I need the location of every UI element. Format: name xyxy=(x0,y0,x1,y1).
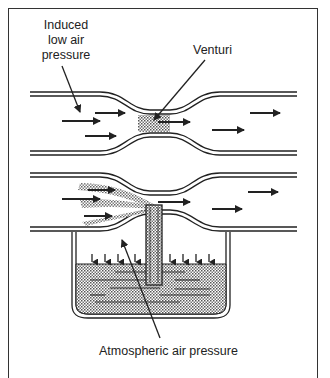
venturi-leader xyxy=(154,60,205,120)
discharge-nozzle xyxy=(146,205,162,285)
venturi-throat-shading xyxy=(138,115,170,132)
induced-pressure-leader xyxy=(62,66,80,112)
atmospheric-air-pressure-label: Atmospheric air pressure xyxy=(99,344,238,359)
venturi-label: Venturi xyxy=(193,43,232,58)
induced-low-air-pressure-label: Induced low air pressure xyxy=(36,18,96,63)
